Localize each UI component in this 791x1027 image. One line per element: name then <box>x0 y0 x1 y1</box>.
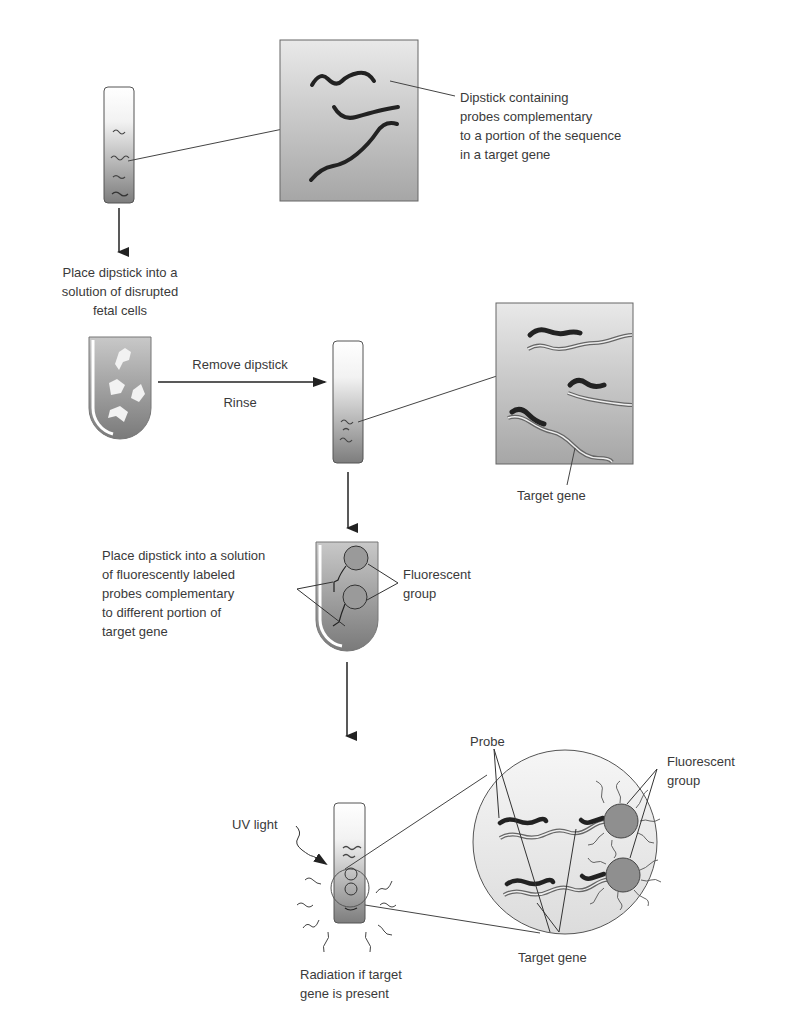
uv-light-arrow <box>296 826 326 864</box>
leader-line <box>358 370 515 422</box>
leader-line <box>345 775 487 869</box>
fluorescent-group-label-1: Fluorescent group <box>403 565 471 603</box>
place-into-fluor-label: Place dipstick into a solution of fluore… <box>102 546 265 641</box>
dipstick-1 <box>104 87 134 203</box>
fluorescent-group-label-2: Fluorescent group <box>667 752 735 790</box>
rinse-label: Rinse <box>170 393 310 412</box>
remove-dipstick-label: Remove dipstick <box>170 355 310 374</box>
dna-probe-diagram <box>0 0 791 1027</box>
probe-label: Probe <box>470 732 505 751</box>
uv-light-label: UV light <box>232 815 278 834</box>
radiation-label: Radiation if target gene is present <box>300 965 402 1003</box>
magnified-hybrid-box <box>496 303 633 464</box>
dipstick-2 <box>333 341 363 463</box>
figure-caption-cropped <box>0 1014 791 1027</box>
magnified-probes-box <box>280 40 418 201</box>
tube-fluorescent-probes <box>297 542 398 651</box>
tube-disrupted-cells <box>89 337 151 439</box>
dipstick-uv <box>331 803 369 923</box>
place-into-cells-label: Place dipstick into a solution of disrup… <box>40 263 200 320</box>
target-gene-label-2: Target gene <box>518 948 587 967</box>
target-gene-label-1: Target gene <box>517 486 586 505</box>
magnified-fluorescence-circle <box>473 750 661 934</box>
dipstick-label: Dipstick containing probes complementary… <box>460 88 621 164</box>
